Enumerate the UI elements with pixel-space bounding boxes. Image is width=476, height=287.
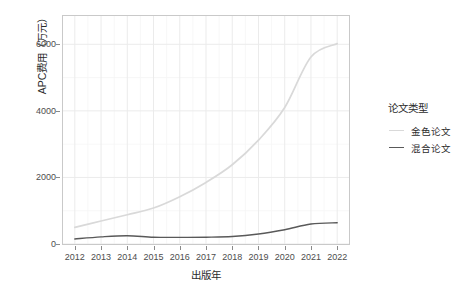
legend-item[interactable]: 金色论文: [388, 122, 474, 139]
x-axis-tick-label: 2022: [320, 252, 354, 262]
y-axis-tick-mark: [56, 244, 60, 245]
plot-series-svg: [63, 16, 349, 244]
x-axis-tick-mark: [311, 246, 312, 250]
y-axis-tick-mark: [56, 44, 60, 45]
x-axis-tick-mark: [154, 246, 155, 250]
plot-panel: [62, 15, 350, 245]
legend-items: 金色论文混合论文: [388, 122, 474, 156]
y-axis-tick-labels: 0200040006000: [8, 15, 56, 245]
x-axis-tick-mark: [232, 246, 233, 250]
legend: 论文类型 金色论文混合论文: [388, 100, 474, 156]
y-axis-tick-label: 4000: [14, 106, 56, 116]
legend-title: 论文类型: [388, 100, 474, 115]
legend-item[interactable]: 混合论文: [388, 139, 474, 156]
x-axis-tick-mark: [285, 246, 286, 250]
x-axis-tick-mark: [206, 246, 207, 250]
legend-item-label: 混合论文: [411, 141, 451, 155]
y-axis-tick-mark: [56, 177, 60, 178]
x-axis-tick-mark: [180, 246, 181, 250]
y-axis-tick-mark: [56, 111, 60, 112]
x-axis-title: 出版年: [62, 267, 350, 282]
legend-line-icon: [388, 141, 405, 155]
x-axis-tick-mark: [127, 246, 128, 250]
y-axis-tick-label: 0: [14, 239, 56, 249]
x-axis-tick-mark: [75, 246, 76, 250]
y-axis-tick-label: 6000: [14, 39, 56, 49]
x-axis-tick-mark: [101, 246, 102, 250]
x-axis-ticks: 2012201320142015201620172018201920202021…: [62, 246, 350, 268]
x-axis-tick-mark: [258, 246, 259, 250]
x-axis-tick-mark: [337, 246, 338, 250]
chart-root: APC费用（万元） 0200040006000 2012201320142015…: [0, 0, 476, 287]
legend-line-icon: [388, 124, 405, 138]
legend-item-label: 金色论文: [411, 124, 451, 138]
y-axis-tick-label: 2000: [14, 172, 56, 182]
